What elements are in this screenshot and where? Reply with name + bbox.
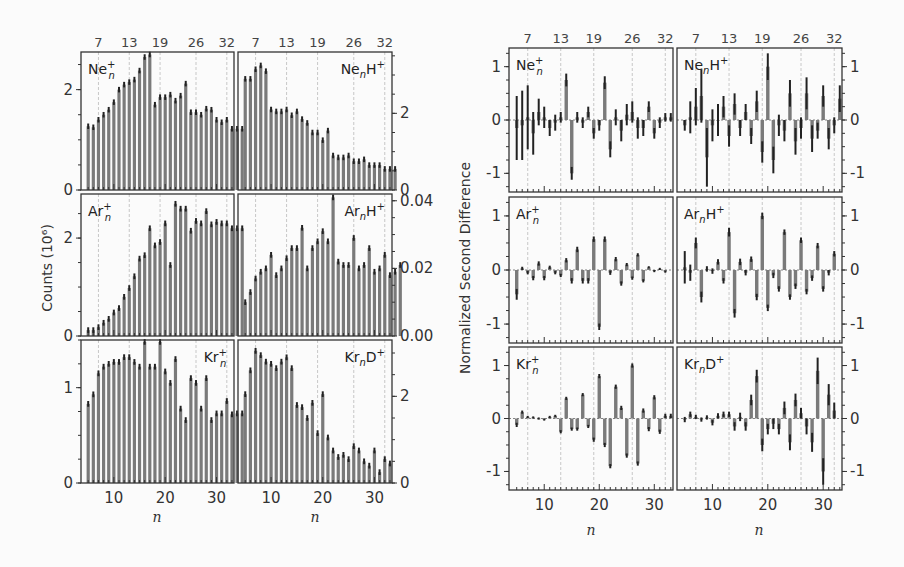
- data-bar: [331, 156, 334, 191]
- data-bar: [133, 362, 136, 483]
- data-bar: [316, 241, 319, 336]
- data-bar: [362, 159, 365, 190]
- data-bar: [347, 459, 350, 483]
- data-bar: [189, 378, 192, 483]
- data-bar: [727, 232, 730, 270]
- data-bar: [576, 249, 579, 270]
- y-tick-label: 2: [63, 81, 73, 99]
- data-bar: [631, 366, 634, 419]
- data-bar: [342, 157, 345, 190]
- data-bar: [200, 115, 203, 190]
- data-bar: [290, 115, 293, 190]
- data-bar: [230, 129, 233, 190]
- data-bar: [306, 123, 309, 190]
- x-tick-label: 20: [156, 489, 175, 507]
- x-tick-label: 10: [703, 496, 722, 514]
- panel-counts-3: 0.000.020.04ArnH+: [238, 192, 433, 345]
- data-bar: [230, 228, 233, 336]
- right-y-axis-label: Normalized Second Difference: [457, 162, 473, 374]
- y-tick-label: 1: [850, 357, 860, 375]
- data-bar: [220, 223, 223, 336]
- panel-label: Kr+n: [204, 347, 227, 369]
- right-col1-x-axis-label: n: [586, 522, 595, 538]
- data-bar: [128, 288, 131, 336]
- panel-label: NenH+: [341, 59, 385, 80]
- data-bar: [158, 97, 161, 190]
- panel-label: KrnD+: [345, 347, 385, 368]
- data-bar: [158, 242, 161, 336]
- data-bar: [275, 368, 278, 483]
- magic-number-label: 7: [94, 35, 102, 50]
- data-bar: [169, 383, 172, 483]
- magic-number-label: 19: [309, 35, 326, 50]
- panel-counts-1: 02713192632NenH+: [238, 35, 410, 199]
- data-bar: [148, 228, 151, 336]
- data-bar: [331, 451, 334, 484]
- y-tick-label: 1: [491, 58, 501, 76]
- data-bar: [636, 255, 639, 270]
- data-bar: [766, 270, 769, 308]
- data-bar: [816, 246, 819, 270]
- data-bar: [117, 362, 120, 483]
- data-bar: [194, 112, 197, 190]
- data-bar: [143, 57, 146, 190]
- y-tick-label: 0: [850, 410, 860, 428]
- magic-number-label: 32: [219, 35, 236, 50]
- x-tick-label: 20: [313, 489, 332, 507]
- data-bar: [259, 65, 262, 190]
- data-bar: [783, 232, 786, 270]
- x-tick-label: 10: [262, 489, 281, 507]
- left-y-axis-label: Counts (10⁶): [39, 224, 55, 312]
- data-bar: [603, 239, 606, 270]
- data-bar: [306, 268, 309, 336]
- data-bar: [269, 110, 272, 191]
- data-bar: [148, 367, 151, 483]
- data-bar: [269, 364, 272, 483]
- magic-number-label: 7: [251, 35, 259, 50]
- data-bar: [311, 403, 314, 483]
- data-bar: [241, 129, 244, 190]
- panel-label: ArnH+: [344, 201, 385, 222]
- data-bar: [215, 222, 218, 336]
- data-bar: [123, 85, 126, 190]
- data-bar: [285, 258, 288, 336]
- x-tick-label: 30: [207, 489, 226, 507]
- data-bar: [264, 362, 267, 483]
- data-bar: [337, 457, 340, 483]
- data-bar: [184, 84, 187, 190]
- data-bar: [210, 110, 213, 190]
- y-tick-label: -1: [850, 164, 865, 182]
- data-bar: [205, 109, 208, 190]
- data-bar: [128, 357, 131, 483]
- data-bar: [194, 383, 197, 483]
- data-bar: [614, 387, 617, 419]
- data-bar: [316, 433, 319, 483]
- y-tick-label: 0: [63, 181, 73, 199]
- data-bar: [169, 95, 172, 190]
- data-bar: [393, 169, 396, 190]
- data-bar: [598, 376, 601, 418]
- data-bar: [92, 127, 95, 190]
- panel-counts-0: 02713192632Ne+n: [63, 35, 243, 199]
- data-bar: [138, 71, 141, 190]
- x-tick-label: 30: [645, 496, 664, 514]
- data-bar: [290, 368, 293, 483]
- data-bar: [244, 394, 247, 483]
- panel-counts-5: 02102030KrnD+: [238, 340, 410, 507]
- data-bar: [249, 79, 252, 190]
- data-bar: [383, 169, 386, 190]
- data-bar: [347, 156, 350, 191]
- data-bar: [244, 79, 247, 190]
- data-bar: [326, 241, 329, 336]
- y-tick-label: 0: [850, 261, 860, 279]
- data-bar: [799, 240, 802, 270]
- y-tick-label: 0: [63, 474, 73, 492]
- data-bar: [254, 69, 257, 190]
- data-bar: [378, 268, 381, 336]
- y-tick-label: -1: [486, 315, 501, 333]
- data-bar: [117, 90, 120, 190]
- data-bar: [603, 419, 606, 445]
- data-bar: [128, 82, 131, 190]
- magic-number-label: 32: [826, 31, 843, 46]
- magic-number-label: 26: [624, 31, 641, 46]
